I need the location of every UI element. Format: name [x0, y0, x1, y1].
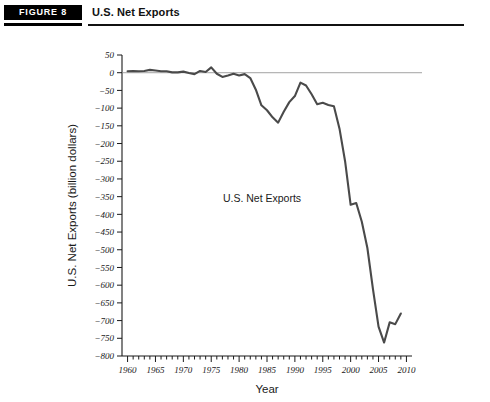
y-tick-label: −500: [94, 245, 114, 255]
x-tick-label: 1980: [230, 365, 249, 375]
y-tick-label: −300: [94, 174, 114, 184]
x-axis-title: Year: [255, 383, 278, 395]
figure-header: FIGURE 8 U.S. Net Exports: [0, 4, 490, 32]
y-tick-label: −450: [94, 227, 114, 237]
x-tick-label: 1970: [174, 365, 193, 375]
y-tick-label: −250: [94, 156, 114, 166]
annotation-text: U.S. Net Exports: [223, 192, 301, 204]
figure-badge: FIGURE 8: [4, 5, 82, 20]
y-tick-label: −100: [94, 103, 114, 113]
x-tick-label: 1975: [202, 365, 221, 375]
series-annotation-label: U.S. Net Exports: [223, 192, 301, 204]
y-tick-label: −350: [94, 192, 114, 202]
y-tick-label: −750: [94, 333, 114, 343]
x-tick-label: 2000: [342, 365, 361, 375]
x-tick-label: 1985: [258, 365, 277, 375]
y-axis-title: U.S. Net Exports (billion dollars): [66, 124, 78, 287]
y-axis: 500−50−100−150−200−250−300−350−400−450−5…: [94, 50, 122, 361]
chart-plate: 500−50−100−150−200−250−300−350−400−450−5…: [0, 30, 490, 402]
y-tick-label: −600: [94, 280, 114, 290]
y-tick-label: −800: [94, 351, 114, 361]
y-tick-label: −650: [94, 298, 114, 308]
data-series-net-exports: [128, 67, 401, 342]
figure-title: U.S. Net Exports: [92, 5, 180, 20]
x-tick-label: 1960: [119, 365, 138, 375]
header-rule-left: [4, 23, 82, 26]
y-tick-label: −150: [94, 121, 114, 131]
x-axis: 1960196519701975198019851990199520002005…: [119, 356, 416, 375]
y-tick-label: −200: [94, 139, 114, 149]
net-exports-line: [128, 67, 401, 342]
y-tick-label: −700: [94, 316, 114, 326]
x-tick-label: 2005: [370, 365, 389, 375]
x-tick-label: 1990: [286, 365, 305, 375]
line-chart: 500−50−100−150−200−250−300−350−400−450−5…: [0, 30, 490, 402]
x-tick-label: 1965: [146, 365, 165, 375]
y-tick-label: −400: [94, 210, 114, 220]
header-rule-right: [88, 24, 464, 26]
x-tick-label: 2010: [397, 365, 416, 375]
y-tick-label: 50: [105, 50, 115, 60]
x-tick-label: 1995: [314, 365, 333, 375]
y-tick-label: −50: [99, 86, 115, 96]
y-tick-label: −550: [94, 263, 114, 273]
y-tick-label: 0: [110, 68, 115, 78]
